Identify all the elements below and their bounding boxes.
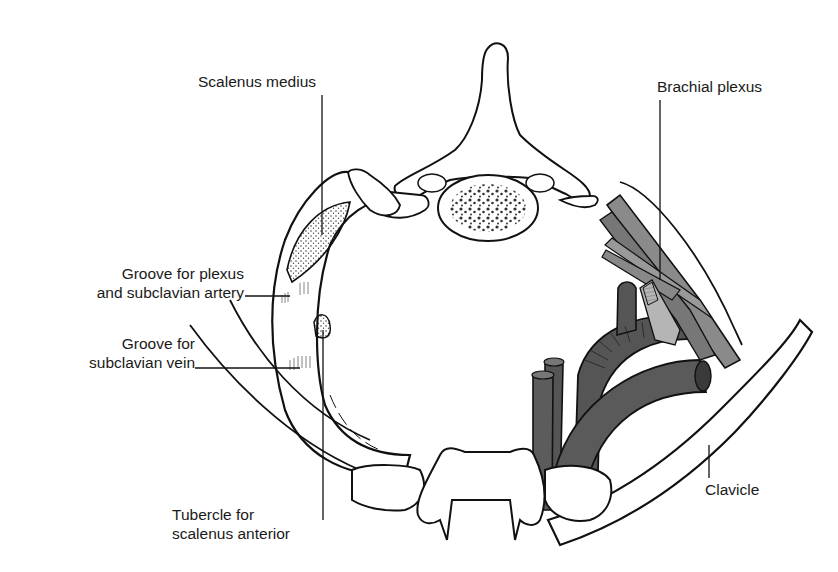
label-tubercle: Tubercle for scalenus anterior — [172, 505, 290, 543]
label-groove-plexus-line1: Groove for plexus — [50, 264, 244, 283]
label-tubercle-line1: Tubercle for — [172, 505, 290, 524]
label-groove-vein: Groove for subclavian vein — [50, 334, 195, 372]
label-clavicle: Clavicle — [705, 480, 759, 499]
label-groove-vein-line1: Groove for — [50, 334, 195, 353]
label-groove-plexus: Groove for plexus and subclavian artery — [50, 264, 244, 302]
label-groove-vein-line2: subclavian vein — [50, 353, 195, 372]
label-scalenus-medius: Scalenus medius — [198, 72, 316, 91]
label-brachial-plexus: Brachial plexus — [657, 77, 762, 96]
vertebra — [348, 43, 598, 241]
label-groove-plexus-line2: and subclavian artery — [50, 283, 244, 302]
label-tubercle-line2: scalenus anterior — [172, 524, 290, 543]
